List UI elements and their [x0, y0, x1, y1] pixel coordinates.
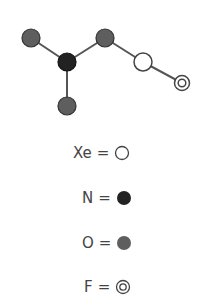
- atom-f: [175, 76, 190, 91]
- atom-xe: [134, 53, 152, 71]
- legend-xe: Xe =: [73, 143, 130, 163]
- equals-sign: =: [98, 189, 111, 207]
- equals-sign: =: [97, 144, 110, 162]
- legend-symbol: N: [82, 189, 93, 207]
- bonds: [31, 38, 182, 106]
- gray-circle-icon: [116, 235, 132, 251]
- atom-n-center: [58, 53, 76, 71]
- legend-o: O =: [82, 233, 132, 253]
- legend-symbol: O: [82, 234, 94, 252]
- legend-f: F =: [84, 277, 131, 297]
- atom-o-right: [96, 29, 114, 47]
- equals-sign: =: [99, 234, 112, 252]
- black-circle-icon: [116, 190, 132, 206]
- atom-o-bottom: [58, 97, 76, 115]
- legend-symbol: F: [84, 278, 93, 296]
- double-circle-icon: [115, 279, 131, 295]
- open-circle-icon: [114, 145, 130, 161]
- molecule-diagram: [0, 0, 197, 130]
- legend-n: N =: [82, 188, 132, 208]
- legend-symbol: Xe: [73, 144, 92, 162]
- atom-o-left: [22, 29, 40, 47]
- equals-sign: =: [98, 278, 111, 296]
